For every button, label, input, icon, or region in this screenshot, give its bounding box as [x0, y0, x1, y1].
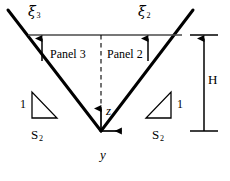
- slope-triangle-left: [32, 92, 57, 118]
- slope-run-right-label: S2: [152, 128, 164, 141]
- slope-rise-left-label: 1: [20, 98, 26, 110]
- xi-left-subscript: 3: [36, 11, 41, 20]
- panel-left-label: Panel 3: [50, 48, 86, 60]
- xi-left-label: ξ3: [28, 4, 41, 18]
- left-bank-line: [8, 10, 101, 131]
- z-axis-label: z: [106, 104, 111, 117]
- v-channel-cross-section-figure: ξ3 ξ2 Panel 3 Panel 2 z y H 1 1 S2 S2: [0, 0, 230, 181]
- right-bank-line: [101, 10, 193, 131]
- xi-right-symbol: ξ: [138, 3, 146, 19]
- y-axis-label: y: [100, 148, 106, 161]
- panel-right-label: Panel 2: [107, 48, 143, 60]
- xi-left-symbol: ξ: [28, 3, 36, 19]
- slope-triangle-right: [146, 92, 171, 118]
- height-label: H: [208, 73, 217, 86]
- slope-rise-right-label: 1: [177, 98, 183, 110]
- slope-run-right-subscript: 2: [159, 134, 164, 143]
- xi-right-label: ξ2: [138, 4, 151, 18]
- slope-run-left-subscript: 2: [38, 134, 43, 143]
- slope-run-left-label: S2: [31, 128, 43, 141]
- figure-vector-canvas: [0, 0, 230, 181]
- xi-right-subscript: 2: [146, 11, 151, 20]
